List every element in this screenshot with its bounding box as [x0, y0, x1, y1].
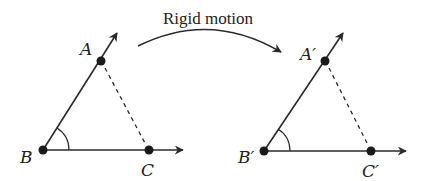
point-A-prime — [321, 57, 330, 66]
point-C-prime — [367, 147, 376, 156]
rigid-motion-transform: Rigid motion — [138, 9, 281, 52]
label-C: C — [141, 160, 154, 180]
angle-arc-B — [57, 128, 69, 150]
segment-A-prime-C-prime-dashed — [329, 68, 368, 145]
point-A — [97, 57, 106, 66]
point-B — [39, 146, 48, 155]
angle-arc-B-prime — [278, 129, 290, 151]
label-B: B — [19, 147, 33, 167]
image-figure: A′ B′ C′ — [237, 33, 406, 181]
point-C — [145, 146, 154, 155]
label-A-prime: A′ — [298, 44, 316, 64]
label-B-prime: B′ — [237, 147, 254, 167]
caption-rigid-motion: Rigid motion — [163, 9, 254, 28]
segment-AC-dashed — [105, 68, 146, 145]
original-figure: A B C — [19, 33, 183, 180]
label-A: A — [78, 39, 92, 59]
transform-arrow-icon — [138, 29, 281, 52]
rigid-motion-diagram: Rigid motion A B C A′ B′ C′ — [0, 0, 423, 181]
label-C-prime: C′ — [362, 161, 379, 181]
point-B-prime — [260, 147, 269, 156]
